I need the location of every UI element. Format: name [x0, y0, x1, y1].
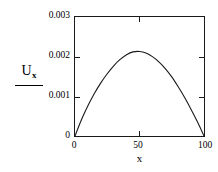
- tick-right-y0.001: [199, 97, 204, 98]
- y-axis-label-subscript: x: [32, 70, 37, 80]
- chart-figure: Ux 0.003 0.002 0.001 0 0 50 100 x: [0, 0, 218, 172]
- tick-right-y0.002: [199, 57, 204, 58]
- data-curve: [75, 17, 204, 136]
- y-tick-label-0.002: 0.002: [34, 51, 70, 61]
- y-axis-label: Ux: [10, 64, 48, 86]
- curve-path: [75, 51, 204, 136]
- plot-area: [74, 16, 205, 137]
- y-tick-label-0.003: 0.003: [34, 11, 70, 21]
- y-tick-label-0: 0: [34, 131, 70, 141]
- x-tick-label-100: 100: [194, 141, 216, 151]
- tick-left-y0.002: [75, 57, 80, 58]
- y-axis-label-fraction-bar: [15, 85, 43, 86]
- y-tick-label-0.001: 0.001: [34, 91, 70, 101]
- y-axis-label-symbol: U: [21, 63, 31, 78]
- y-axis-label-numerator: Ux: [10, 64, 48, 80]
- tick-bottom-x50: [139, 131, 140, 136]
- tick-top-x50: [139, 17, 140, 22]
- x-axis-label: x: [74, 153, 205, 164]
- x-tick-label-50: 50: [128, 141, 148, 151]
- x-tick-label-0: 0: [64, 141, 84, 151]
- tick-left-y0.001: [75, 97, 80, 98]
